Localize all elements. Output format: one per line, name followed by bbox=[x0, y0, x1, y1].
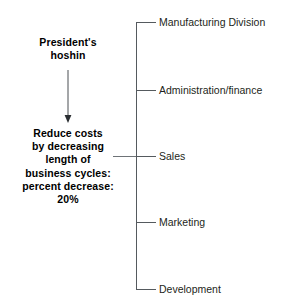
branch-stub-administration-finance bbox=[136, 90, 156, 91]
cost-reduction-goal-text: Reduce costs by decreasing length of bus… bbox=[0, 127, 136, 206]
down-arrow-icon bbox=[60, 70, 76, 124]
hoshin-column: President's hoshin Reduce costs by decre… bbox=[0, 0, 136, 308]
branch-label-development: Development bbox=[159, 283, 221, 295]
branch-label-marketing: Marketing bbox=[159, 216, 205, 228]
branch-label-manufacturing-division: Manufacturing Division bbox=[159, 16, 265, 28]
presidents-hoshin-title: President's hoshin bbox=[0, 36, 136, 62]
branch-stub-manufacturing-division bbox=[136, 22, 156, 23]
branch-stub-development bbox=[136, 289, 156, 290]
hoshin-deployment-diagram: President's hoshin Reduce costs by decre… bbox=[0, 0, 284, 308]
branch-label-sales: Sales bbox=[159, 150, 185, 162]
branch-stub-sales bbox=[136, 156, 156, 157]
branch-label-administration-finance: Administration/finance bbox=[159, 84, 262, 96]
branch-stub-marketing bbox=[136, 222, 156, 223]
